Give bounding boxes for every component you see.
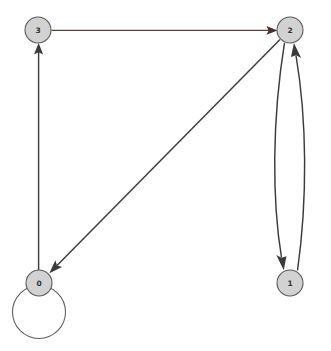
node-2[interactable]: 2: [277, 17, 303, 43]
edge-1-to-2-path: [296, 56, 305, 271]
edge-0-to-3[interactable]: [34, 43, 43, 270]
node-3-label: 3: [35, 26, 40, 35]
node-1[interactable]: 1: [277, 270, 303, 296]
edge-layer: [13, 26, 305, 339]
node-3[interactable]: 3: [25, 17, 51, 43]
edge-3-to-2[interactable]: [52, 26, 278, 35]
edge-1-to-2[interactable]: [291, 43, 305, 271]
edge-2-to-0[interactable]: [49, 40, 280, 274]
node-1-label: 1: [287, 279, 292, 288]
edge-2-to-0-path: [57, 40, 280, 266]
node-2-label: 2: [287, 26, 292, 35]
node-0-label: 0: [36, 279, 41, 288]
graph-canvas: 3 2 0 1: [0, 0, 331, 351]
directed-graph-figure: 3 2 0 1: [0, 0, 331, 351]
edge-2-to-1[interactable]: [275, 43, 287, 270]
edge-2-to-1-path: [275, 43, 285, 258]
node-0[interactable]: 0: [26, 270, 52, 296]
